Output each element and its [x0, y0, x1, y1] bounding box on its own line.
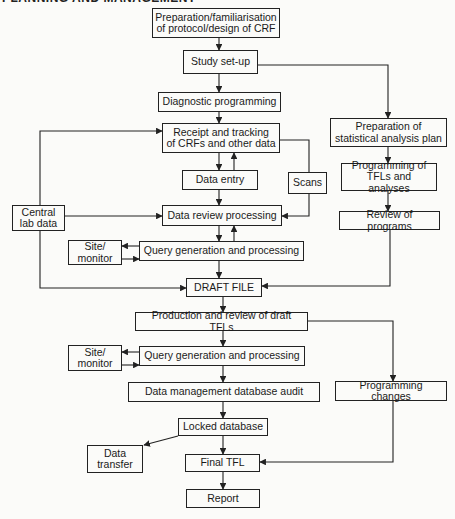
node-final-tfl: Final TFL: [185, 454, 260, 472]
node-site-monitor-1: Site/monitor: [68, 240, 122, 265]
node-central-lab-data: Centrallab data: [12, 205, 65, 231]
node-label: monitor: [77, 253, 112, 265]
node-label: Report: [207, 493, 239, 505]
node-review-of-programs: Review of programs: [339, 211, 440, 230]
node-prep-statistical-analysis-plan: Preparation ofstatistical analysis plan: [330, 118, 447, 147]
node-label: Data entry: [196, 174, 244, 186]
node-label: Site/: [77, 241, 112, 253]
node-label: Preparation of: [335, 121, 442, 133]
node-label: statistical analysis plan: [335, 133, 442, 145]
node-label: of protocol/design of CRF: [155, 23, 276, 35]
node-dm-database-audit: Data management database audit: [128, 382, 320, 402]
node-label: Data management database audit: [145, 386, 303, 398]
node-label: Programming changes: [339, 380, 443, 403]
node-label: Review of programs: [343, 209, 436, 232]
node-label: Diagnostic programming: [163, 96, 277, 108]
node-label: transfer: [97, 459, 133, 471]
node-query-generation-2: Query generation and processing: [139, 346, 305, 366]
node-label: Data review processing: [167, 210, 276, 222]
node-data-entry: Data entry: [182, 170, 258, 190]
node-query-generation-1: Query generation and processing: [139, 241, 304, 261]
node-locked-database: Locked database: [178, 418, 268, 436]
node-label: Scans: [293, 177, 322, 189]
node-production-review-draft-tfls: Production and review of draft TFLs: [135, 312, 308, 331]
node-data-transfer: Datatransfer: [87, 445, 143, 473]
node-label: Final TFL: [200, 457, 244, 469]
node-label: lab data: [20, 218, 57, 230]
node-label: monitor: [77, 358, 112, 370]
node-programming-tfls: Programming ofTFLs and analyses: [341, 163, 437, 191]
node-label: Query generation and processing: [144, 350, 299, 362]
node-label: Study set-up: [191, 56, 250, 68]
node-prep-protocol: Preparation/familiarisationof protocol/d…: [152, 8, 280, 38]
node-programming-changes: Programming changes: [335, 381, 447, 401]
node-receipt-tracking: Receipt and trackingof CRFs and other da…: [162, 123, 280, 153]
node-scans: Scans: [288, 172, 327, 194]
node-diagnostic-programming: Diagnostic programming: [158, 92, 281, 112]
node-label: TFLs and analyses: [345, 171, 433, 194]
node-report: Report: [186, 489, 260, 508]
node-label: of CRFs and other data: [166, 138, 275, 150]
node-draft-file: DRAFT FILE: [186, 278, 262, 297]
node-label: Query generation and processing: [144, 245, 299, 257]
node-site-monitor-2: Site/monitor: [68, 345, 122, 371]
node-label: DRAFT FILE: [194, 282, 254, 294]
node-label: Production and review of draft TFLs: [139, 310, 304, 333]
node-label: Locked database: [183, 421, 263, 433]
node-study-setup: Study set-up: [183, 50, 258, 74]
node-data-review-processing: Data review processing: [162, 205, 282, 226]
